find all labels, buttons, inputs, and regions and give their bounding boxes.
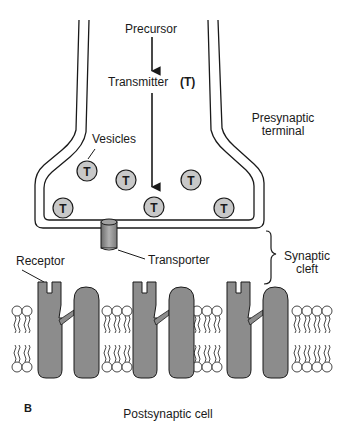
vesicles-leader	[88, 149, 95, 159]
vesicles-label: Vesicles	[92, 132, 136, 146]
receptor-subunit-rounded	[74, 287, 99, 378]
receptor-subunit-rounded	[169, 287, 194, 378]
precursor-label: Precursor	[125, 22, 177, 36]
presynaptic-terminal	[35, 20, 264, 228]
svg-text:T: T	[187, 174, 195, 188]
vesicle: T	[77, 161, 97, 181]
transmitter-symbol: (T)	[180, 75, 195, 89]
synaptic-cleft-label-line1: Synaptic	[284, 249, 330, 263]
transporter-label: Transporter	[148, 253, 210, 267]
svg-text:T: T	[59, 202, 67, 216]
synapse-diagram: Precursor Transmitter (T) Presynaptic te…	[0, 0, 349, 440]
receptor-complex	[133, 282, 194, 378]
panel-label: B	[24, 402, 32, 414]
svg-text:T: T	[220, 202, 228, 216]
vesicle: T	[144, 197, 164, 217]
svg-text:T: T	[150, 201, 158, 215]
receptor-leader	[22, 270, 44, 282]
svg-text:T: T	[83, 165, 91, 179]
transporter-leader	[118, 250, 145, 259]
vesicles: T T T T T T	[53, 161, 234, 218]
receptor-complex	[227, 282, 288, 378]
presynaptic-label-line1: Presynaptic	[252, 111, 315, 125]
vesicle: T	[116, 170, 136, 190]
vesicle: T	[53, 198, 73, 218]
vesicle: T	[181, 170, 201, 190]
vesicle: T	[214, 198, 234, 218]
synaptic-cleft-brace	[264, 231, 276, 284]
receptor-subunit-notched	[227, 282, 251, 378]
presynaptic-label-line2: terminal	[262, 124, 305, 138]
postsynaptic-label: Postsynaptic cell	[123, 407, 212, 421]
synaptic-cleft-label-line2: cleft	[296, 262, 319, 276]
svg-text:T: T	[122, 174, 130, 188]
receptor-subunit-notched	[133, 282, 157, 378]
receptor-subunit-notched	[38, 282, 62, 378]
transmitter-label: Transmitter	[108, 75, 168, 89]
receptor-label: Receptor	[16, 254, 65, 268]
receptor-complex	[38, 282, 99, 378]
receptor-subunit-rounded	[263, 287, 288, 378]
transporter	[101, 219, 117, 250]
receptor-proteins	[38, 282, 288, 378]
